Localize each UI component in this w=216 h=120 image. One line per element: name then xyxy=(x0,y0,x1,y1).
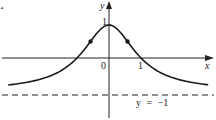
graph xyxy=(0,0,216,120)
x-intercept-label: 1 xyxy=(138,61,143,71)
y-axis-label: y xyxy=(100,1,104,11)
y-axis-arrow-icon xyxy=(106,1,112,9)
x-axis-label: x xyxy=(205,61,209,71)
asymptote-label: y = −1 xyxy=(136,98,168,108)
problem-label: 1. xyxy=(0,1,4,11)
peak-label: 1 xyxy=(102,17,107,27)
curve xyxy=(8,25,208,85)
inflection-point xyxy=(88,39,92,43)
inflection-point xyxy=(125,39,129,43)
origin-label: 0 xyxy=(101,61,106,71)
